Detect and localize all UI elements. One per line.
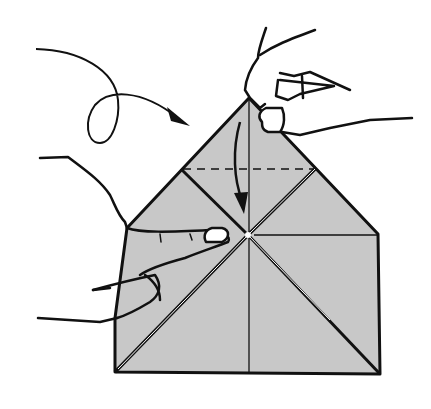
paper-model xyxy=(115,98,380,374)
turn-over-arrow-icon xyxy=(36,49,190,143)
right-hand-icon xyxy=(245,28,412,135)
origami-diagram: Hands folding the top point of a square-… xyxy=(0,0,431,409)
